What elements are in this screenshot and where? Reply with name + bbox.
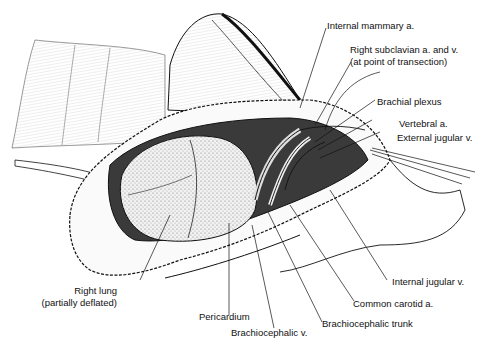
label-common-carotid: Common carotid a. — [353, 298, 433, 310]
label-internal-mammary: Internal mammary a. — [327, 20, 414, 32]
pectoral-muscle-flap — [168, 14, 300, 111]
label-right-lung-note: (partially deflated) — [37, 297, 117, 309]
label-right-subclavian: Right subclavian a. and v. — [350, 44, 458, 56]
label-brachiocephalic-trunk: Brachiocephalic trunk — [322, 318, 413, 330]
label-right-subclavian-note: (at point of transection) — [350, 56, 447, 68]
label-external-jugular: External jugular v. — [397, 132, 472, 144]
label-vertebral: Vertebral a. — [399, 118, 448, 130]
label-internal-jugular: Internal jugular v. — [392, 276, 464, 288]
anatomy-figure: Internal mammary a. Right subclavian a. … — [0, 0, 481, 344]
label-brachiocephalic-v: Brachiocephalic v. — [231, 327, 307, 339]
label-brachial-plexus: Brachial plexus — [377, 96, 441, 108]
label-right-lung: Right lung — [72, 285, 117, 297]
label-pericardium: Pericardium — [199, 311, 250, 323]
